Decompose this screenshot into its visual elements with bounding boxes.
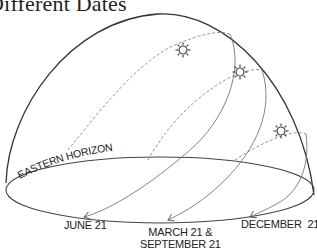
equinox-label: MARCH 21 & SEPTEMBER 21 [140, 226, 221, 250]
december-21-label: DECEMBER 21 [241, 218, 317, 230]
eastern-horizon-label: EASTERN HORIZON [15, 141, 113, 181]
equinox-dashed-path [148, 69, 262, 160]
june-21-label: JUNE 21 [64, 219, 107, 231]
dome-outline [6, 14, 314, 195]
sun-icon [274, 124, 289, 139]
equinox-solid-path [168, 70, 266, 220]
sun-icon [176, 43, 191, 58]
equinox-label-line1: MARCH 21 & [140, 226, 221, 238]
june-dashed-path [68, 32, 230, 150]
sun-icon [233, 65, 248, 80]
equinox-label-line2: SEPTEMBER 21 [140, 238, 221, 250]
june-solid-path [84, 34, 235, 217]
sun-path-diagram: EASTERN HORIZON [0, 0, 317, 251]
